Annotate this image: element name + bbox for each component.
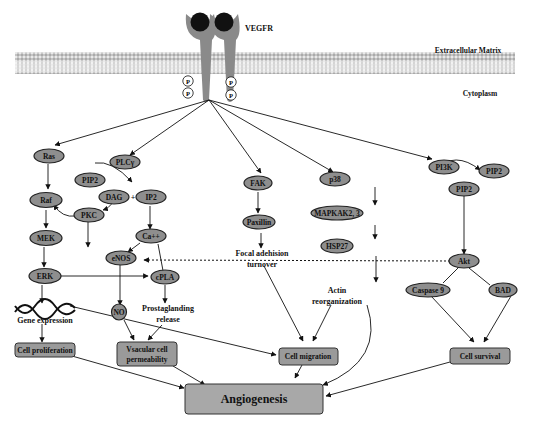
svg-text:Cell survival: Cell survival: [460, 352, 501, 361]
outcome-angiogenesis: Angiogenesis: [185, 384, 323, 414]
focal-adhesion-label-2: turnover: [247, 260, 278, 269]
node-pi3k: PI3K: [429, 160, 459, 174]
prostaglanding-label: Prostaglanding: [142, 304, 194, 313]
node-cpla: cPLA: [151, 270, 179, 284]
svg-text:PIP2: PIP2: [486, 167, 502, 176]
svg-text:Ca++: Ca++: [142, 232, 160, 241]
cell-membrane: [15, 52, 515, 74]
svg-text:P: P: [186, 90, 190, 97]
outcome-cell-migration: Cell migration: [279, 348, 338, 365]
svg-text:eNOS: eNOS: [112, 254, 131, 263]
node-pip2-right: PIP2: [479, 164, 509, 178]
svg-text:MEK: MEK: [37, 234, 55, 243]
svg-text:DAG: DAG: [106, 193, 123, 202]
node-p38: p38: [320, 172, 350, 186]
svg-text:P: P: [186, 78, 190, 85]
node-mek: MEK: [30, 231, 62, 246]
node-mapkak: MAPKAK2, 3: [311, 206, 363, 220]
svg-text:Cell migration: Cell migration: [285, 352, 332, 361]
ligand-icon: [215, 13, 234, 32]
node-plcg: PLCγ: [110, 155, 140, 169]
svg-text:IP2: IP2: [145, 193, 157, 202]
node-pip2-product: PIP2: [449, 182, 479, 196]
node-calcium: Ca++: [136, 229, 166, 243]
node-no: NO: [112, 304, 127, 320]
svg-text:ERK: ERK: [37, 272, 53, 281]
svg-text:cPLA: cPLA: [156, 273, 175, 282]
node-ras: Ras: [34, 149, 64, 163]
node-enos: eNOS: [106, 251, 136, 265]
svg-text:Caspase 9: Caspase 9: [412, 286, 444, 295]
node-fak: FAK: [244, 176, 272, 190]
svg-text:BAD: BAD: [495, 286, 511, 295]
svg-text:NO: NO: [113, 308, 124, 317]
outcome-cell-proliferation: Cell proliferation: [15, 343, 75, 357]
node-bad: BAD: [489, 283, 517, 297]
node-ip2: IP2: [136, 190, 166, 204]
svg-text:Cell proliferation: Cell proliferation: [17, 346, 73, 355]
node-erk: ERK: [29, 269, 61, 284]
outcome-vascular-permeability: Vsacular cell permeability: [117, 342, 177, 366]
svg-text:Vsacular cell: Vsacular cell: [126, 345, 167, 354]
svg-text:P: P: [229, 92, 233, 99]
node-pkc: PKC: [74, 208, 104, 222]
plus-sign: +: [131, 193, 136, 202]
svg-text:MAPKAK2, 3: MAPKAK2, 3: [314, 209, 360, 218]
node-akt: Akt: [449, 254, 479, 268]
node-raf: Raf: [30, 193, 62, 208]
extracellular-label: Extracellular Matrix: [435, 46, 502, 55]
node-pip2-left: PIP2: [75, 173, 105, 187]
prostaglanding-label-2: release: [156, 315, 180, 324]
svg-text:PKC: PKC: [81, 211, 97, 220]
svg-text:PIP2: PIP2: [82, 176, 98, 185]
svg-text:Akt: Akt: [458, 257, 471, 266]
node-hsp27: HSP27: [321, 239, 353, 253]
receptor-label: VEGFR: [245, 24, 273, 33]
svg-text:HSP27: HSP27: [326, 242, 348, 251]
cytoplasm-label: Cytoplasm: [463, 89, 498, 98]
svg-text:PI3K: PI3K: [435, 163, 452, 172]
svg-text:PIP2: PIP2: [456, 185, 472, 194]
node-paxillin: Paxillin: [243, 215, 275, 229]
svg-text:FAK: FAK: [250, 179, 265, 188]
svg-text:Paxillin: Paxillin: [247, 218, 272, 227]
svg-text:PLCγ: PLCγ: [116, 158, 135, 167]
actin-label-2: reorganization: [312, 297, 363, 306]
svg-text:p38: p38: [329, 175, 341, 184]
node-dag: DAG: [99, 190, 129, 204]
svg-text:Raf: Raf: [40, 196, 52, 205]
actin-label: Actin: [328, 286, 347, 295]
svg-text:Angiogenesis: Angiogenesis: [221, 392, 288, 406]
gene-expression-label: Gene expression: [17, 316, 73, 325]
svg-text:P: P: [229, 79, 233, 86]
svg-text:permeability: permeability: [127, 355, 168, 364]
focal-adhesion-label: Focal adehision: [235, 249, 289, 258]
ligand-icon: [191, 13, 210, 32]
outcome-cell-survival: Cell survival: [450, 348, 510, 364]
svg-text:Ras: Ras: [43, 152, 55, 161]
vegfr-signaling-diagram: P P P P VEGFR Extracellular Matrix Cytop…: [0, 0, 540, 424]
node-caspase9: Caspase 9: [406, 283, 450, 297]
